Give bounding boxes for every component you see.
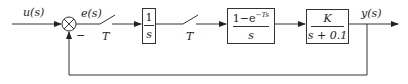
sampler-2-label: T [186,31,193,42]
plant-block: K s + 0.1 [306,9,349,44]
plant-denominator: s + 0.1 [308,27,347,41]
zoh-block: 1−e−Ts s [227,8,275,44]
integrator-numerator: 1 [146,12,153,25]
plant-numerator: K [320,13,334,26]
sampler-1-label: T [102,31,109,42]
error-label: e(s) [81,8,102,19]
integrator-denominator: s [146,26,152,40]
block-diagram: u(s) e(s) − T T y(s) 1 s 1−e−Ts s K s + … [0,0,408,84]
integrator-block: 1 s [142,8,156,44]
sampler-switch-1 [100,15,115,24]
output-label: y(s) [361,8,381,19]
sampler-switch-2 [183,15,198,24]
zoh-numerator-exponent: −Ts [256,11,270,19]
zoh-numerator-base: 1−e [233,12,256,25]
minus-sign: − [76,30,85,41]
input-label: u(s) [23,7,44,18]
zoh-denominator: s [248,27,254,41]
zoh-numerator: 1−e−Ts [230,12,272,26]
